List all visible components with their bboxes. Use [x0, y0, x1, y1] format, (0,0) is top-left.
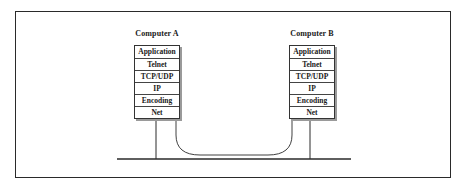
host-b-layer-ip: IP [290, 82, 334, 94]
host-b-layer-telnet: Telnet [290, 58, 334, 70]
host-a-layer-ip: IP [135, 82, 179, 94]
host-a-stack: Application Telnet TCP/UDP IP Encoding N… [134, 45, 180, 119]
host-b-layer-tcp-udp: TCP/UDP [290, 70, 334, 82]
host-a-layer-telnet: Telnet [135, 58, 179, 70]
host-a-layer-encoding: Encoding [135, 94, 179, 106]
host-b-layer-encoding: Encoding [290, 94, 334, 106]
virtual-link-curve [176, 118, 292, 155]
connection-lines [0, 0, 467, 185]
host-b-layer-application: Application [290, 46, 334, 58]
host-b-label: Computer B [272, 29, 352, 38]
host-b-layer-net: Net [290, 106, 334, 118]
host-a-layer-application: Application [135, 46, 179, 58]
host-a-layer-tcp-udp: TCP/UDP [135, 70, 179, 82]
host-a-layer-net: Net [135, 106, 179, 118]
host-a-label: Computer A [117, 29, 197, 38]
host-b-stack: Application Telnet TCP/UDP IP Encoding N… [289, 45, 335, 119]
